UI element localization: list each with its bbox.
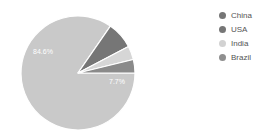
chart-plot-area: 84.6%7.7% (0, 0, 200, 139)
legend-label-china: China (231, 11, 252, 20)
pie-slices-group (21, 16, 135, 130)
pie-chart-screenshot: 84.6%7.7% China USA India Brazil (0, 0, 271, 139)
legend-swatch-india (219, 40, 226, 47)
legend-item-usa[interactable]: USA (219, 22, 271, 36)
pie-slice-value-label: 7.7% (109, 78, 125, 85)
pie-slice-value-label: 84.6% (33, 48, 53, 55)
legend-label-brazil: Brazil (231, 53, 251, 62)
legend-item-china[interactable]: China (219, 8, 271, 22)
chart-legend: China USA India Brazil (219, 8, 271, 64)
legend-label-india: India (231, 39, 248, 48)
legend-label-usa: USA (231, 25, 247, 34)
legend-item-india[interactable]: India (219, 36, 271, 50)
pie-chart-svg: 84.6%7.7% (0, 0, 200, 139)
legend-swatch-usa (219, 26, 226, 33)
legend-swatch-brazil (219, 54, 226, 61)
legend-swatch-china (219, 12, 226, 19)
legend-item-brazil[interactable]: Brazil (219, 50, 271, 64)
